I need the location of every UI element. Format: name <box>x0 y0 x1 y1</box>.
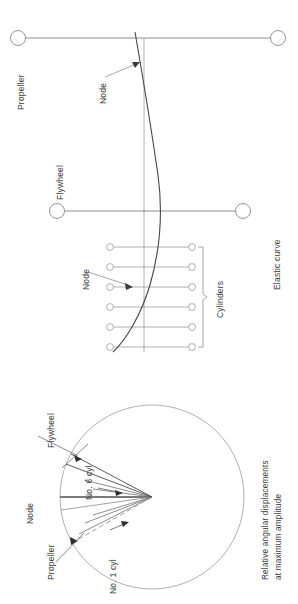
label-node-circle: Node <box>25 503 35 524</box>
vector-cyl-6 <box>66 464 152 497</box>
cylinder-row <box>107 284 196 291</box>
label-elastic-curve: Elastic curve <box>272 239 282 290</box>
label-flywheel-upper: Flywheel <box>55 165 65 200</box>
vector-cyl-2 <box>85 497 152 523</box>
cylinder-row <box>107 244 196 251</box>
label-node-upper: Node <box>98 83 108 104</box>
flywheel-mass-line <box>50 204 251 219</box>
cylinder-row <box>107 304 196 311</box>
label-cyl-6: No. 6 cyl <box>84 465 94 500</box>
figure-caption-line2: at maximum amplitude <box>273 494 284 580</box>
figure-caption-line1: Relative angular displacements <box>260 460 271 580</box>
label-propeller-circle: Propeller <box>46 544 56 580</box>
figure-canvas: Propeller Flywheel Node Node Cylinders E… <box>0 0 298 604</box>
label-flywheel-circle: Flywheel <box>46 413 56 448</box>
elastic-curve-path <box>113 32 160 352</box>
cylinders-bracket <box>198 247 207 347</box>
label-propeller-upper: Propeller <box>16 74 26 110</box>
label-node-lower: Node <box>81 269 91 290</box>
propeller-leader <box>56 533 84 562</box>
label-cylinders: Cylinders <box>215 281 225 318</box>
cylinder-rows <box>107 244 196 351</box>
propeller-mass-line <box>11 31 286 46</box>
vector-cyl-1-dashed <box>72 497 152 543</box>
cylinder-row <box>107 264 196 271</box>
label-cyl-1: No. 1 cyl <box>108 559 118 594</box>
cylinder-row <box>107 324 196 331</box>
vector-fan <box>61 480 152 534</box>
node-upper-leader <box>105 62 140 77</box>
diagram-vector-layer <box>0 0 298 604</box>
cyl1-arrow <box>110 521 129 530</box>
